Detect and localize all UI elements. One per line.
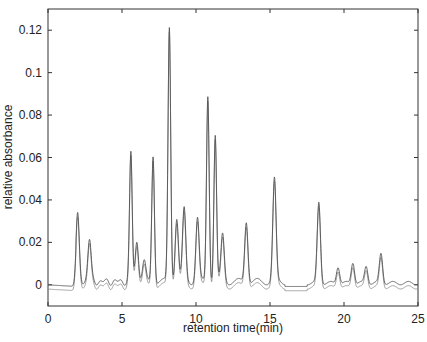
y-tick-label: 0.1 (25, 66, 42, 80)
chromatogram-chart: 00.020.040.060.080.10.12 0510152025 rete… (0, 0, 427, 342)
y-tick-label: 0.06 (19, 151, 43, 165)
x-tick-label: 20 (337, 312, 351, 326)
y-tick-label: 0 (35, 278, 42, 292)
plot-area (48, 9, 418, 306)
x-tick-label: 25 (411, 312, 425, 326)
y-tick-label: 0.12 (19, 23, 43, 37)
y-tick-label: 0.02 (19, 235, 43, 249)
y-axis-label: relative absorbance (1, 104, 15, 209)
x-tick-label: 5 (119, 312, 126, 326)
y-tick-label: 0.08 (19, 108, 43, 122)
x-tick-label: 0 (45, 312, 52, 326)
x-axis-label: retention time(min) (183, 321, 283, 335)
y-tick-label: 0.04 (19, 193, 43, 207)
